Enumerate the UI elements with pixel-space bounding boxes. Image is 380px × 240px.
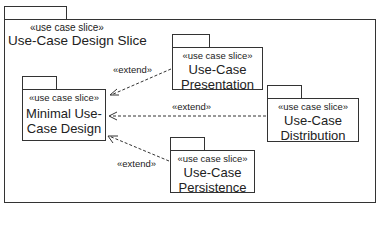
extend-label-persistence: «extend» [117,158,156,169]
extend-label-distribution: «extend» [172,101,211,112]
extend-label-presentation: «extend» [113,64,152,75]
arrowhead-icon [110,89,119,95]
